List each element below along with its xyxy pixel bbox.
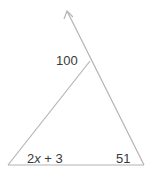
left-angle-label: 2x + 3 (27, 152, 63, 165)
exterior-angle-label: 100 (56, 54, 78, 67)
left-side-line (8, 61, 90, 165)
left-angle-constant: + 3 (41, 151, 63, 166)
extended-side-line (67, 11, 144, 165)
right-angle-label: 51 (116, 152, 130, 165)
